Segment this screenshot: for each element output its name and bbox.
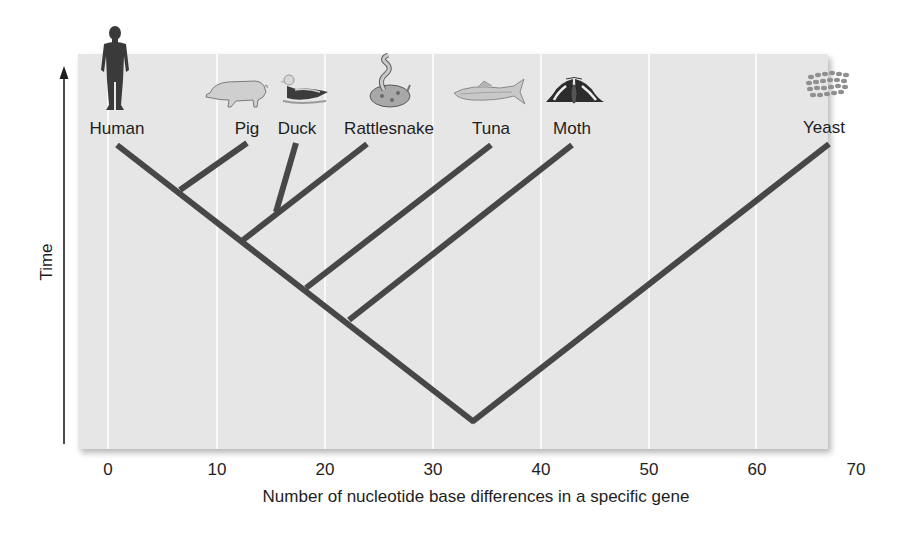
moth-icon	[546, 78, 604, 104]
branch-pig	[180, 143, 247, 190]
x-tick-50: 50	[640, 460, 659, 480]
x-tick-20: 20	[316, 460, 335, 480]
x-tick-40: 40	[532, 460, 551, 480]
duck-icon	[280, 75, 328, 103]
pig-icon	[206, 81, 267, 107]
x-tick-0: 0	[103, 460, 112, 480]
branch-rattlesnake	[243, 144, 367, 240]
x-tick-60: 60	[748, 460, 767, 480]
taxon-label-tuna: Tuna	[472, 119, 510, 139]
tuna-icon	[454, 79, 525, 104]
x-axis-title: Number of nucleotide base differences in…	[263, 487, 690, 507]
rattlesnake-icon	[370, 55, 410, 107]
taxon-label-pig: Pig	[235, 119, 260, 139]
human-icon	[101, 26, 129, 110]
x-tick-30: 30	[424, 460, 443, 480]
taxon-label-duck: Duck	[278, 119, 317, 139]
taxon-label-human: Human	[90, 119, 145, 139]
x-tick-70: 70	[847, 460, 866, 480]
taxon-label-yeast: Yeast	[803, 118, 845, 138]
branch-human	[117, 145, 474, 422]
y-axis-title: Time	[37, 243, 57, 280]
tree-branches	[117, 143, 829, 422]
branch-yeast	[472, 144, 829, 422]
x-tick-10: 10	[208, 460, 227, 480]
taxon-label-moth: Moth	[553, 119, 591, 139]
taxon-label-rattlesnake: Rattlesnake	[344, 119, 434, 139]
time-axis-arrow	[60, 66, 69, 444]
yeast-icon	[806, 71, 849, 97]
phylogenetic-tree	[0, 0, 912, 534]
